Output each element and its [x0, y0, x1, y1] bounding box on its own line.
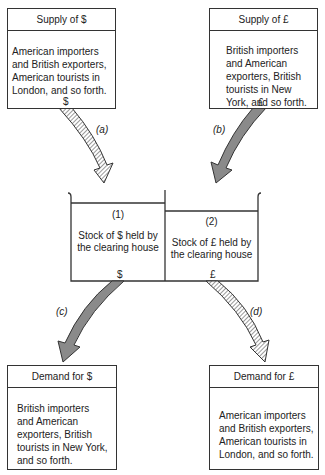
- flow-label-c: (c): [56, 306, 68, 317]
- pound-stock-currency: £: [210, 269, 216, 280]
- supply-pound-title: Supply of £: [210, 9, 317, 31]
- demand-pound-title: Demand for £: [210, 366, 318, 388]
- flow-label-d: (d): [250, 306, 262, 317]
- demand-pound-box: Demand for £ American importers and Brit…: [209, 365, 319, 470]
- pound-stock-text: Stock of £ held by the clearing house: [165, 237, 258, 262]
- flow-arrow-b: [211, 108, 266, 183]
- supply-pound-box: Supply of £ British importers and Americ…: [209, 8, 318, 109]
- flow-arrow-d: [206, 281, 269, 362]
- flow-arrow-c: [58, 281, 124, 362]
- flow-label-a: (a): [96, 124, 108, 135]
- demand-pound-text: American importers and British exporters…: [210, 388, 318, 461]
- dollar-stock-cell: (1) Stock of $ held by the clearing hous…: [71, 209, 165, 255]
- supply-pound-currency: £: [258, 97, 264, 108]
- demand-dollar-text: British importers and American exporters…: [8, 388, 116, 467]
- pound-stock-cell: (2) Stock of £ held by the clearing hous…: [165, 216, 258, 262]
- flow-label-b: (b): [213, 124, 225, 135]
- dollar-stock-text: Stock of $ held by the clearing house: [71, 230, 165, 255]
- supply-dollar-text: American importers and British exporters…: [8, 31, 115, 97]
- demand-dollar-box: Demand for $ British importers and Ameri…: [7, 365, 117, 470]
- supply-dollar-currency: $: [63, 96, 69, 107]
- dollar-stock-currency: $: [117, 269, 123, 280]
- supply-dollar-title: Supply of $: [8, 9, 115, 31]
- flow-arrow-a: [59, 108, 113, 183]
- demand-dollar-title: Demand for $: [8, 366, 116, 388]
- supply-dollar-box: Supply of $ American importers and Briti…: [7, 8, 116, 109]
- dollar-stock-number: (1): [71, 209, 165, 222]
- pound-stock-number: (2): [165, 216, 258, 229]
